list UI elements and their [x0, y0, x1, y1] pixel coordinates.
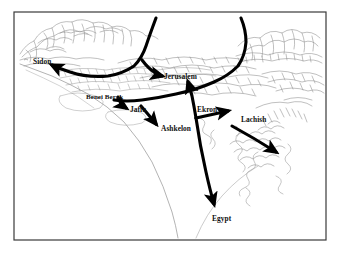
- campaign-route-map: Sidon Benei Berak Jaffa Jerusalem Ashkel…: [0, 0, 340, 257]
- label-benei-berak: Benei Berak: [86, 93, 123, 101]
- label-ashkelon: Ashkelon: [161, 124, 191, 133]
- label-jerusalem: Jerusalem: [164, 72, 198, 81]
- label-jaffa: Jaffa: [130, 105, 147, 114]
- label-ekron: Ekron: [197, 105, 217, 114]
- label-egypt: Egypt: [212, 214, 232, 223]
- label-lachish: Lachish: [241, 115, 266, 124]
- label-sidon: Sidon: [33, 57, 51, 66]
- map-canvas: Sidon Benei Berak Jaffa Jerusalem Ashkel…: [0, 0, 340, 257]
